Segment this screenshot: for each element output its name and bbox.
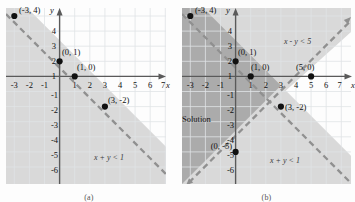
- point-label-b-0-1: (0, 1): [238, 47, 257, 57]
- x-tick-b-4: 2: [264, 80, 268, 90]
- x-tick-a-8: 6: [148, 80, 152, 90]
- panel-b-plot: x y -3 -2 -1 1 2 3 4 5 6 7 4 3 2 1 -1 -2: [178, 0, 355, 192]
- x-axis-label-b: x: [350, 80, 355, 90]
- point-label-b-5-0: (5, 0): [296, 62, 315, 72]
- point-label-b-neg3-4: (-3, 4): [195, 5, 216, 15]
- x-tick-b-1: -2: [202, 80, 209, 90]
- point-b-5-0[interactable]: [308, 73, 314, 79]
- y-tick-a-4: -1: [51, 90, 58, 100]
- y-tick-a-7: -4: [51, 135, 59, 145]
- x-tick-a-9: 7: [161, 80, 165, 90]
- point-label-a-0-1: (0, 1): [62, 47, 81, 57]
- y-tick-b-3: 1: [228, 71, 232, 81]
- point-label-b-0-neg5: (0, -5): [211, 141, 232, 151]
- y-tick-a-6: -3: [51, 120, 58, 130]
- region-label-b-x-plus-y: x + y < 1: [269, 156, 300, 165]
- x-tick-a-7: 5: [133, 80, 137, 90]
- point-b-neg3-4[interactable]: [187, 13, 193, 19]
- point-b-0-1[interactable]: [233, 58, 239, 64]
- y-tick-b-4: -1: [227, 90, 234, 100]
- point-a-0-1[interactable]: [57, 58, 63, 64]
- x-tick-a-2: -1: [41, 80, 48, 90]
- panel-a-plot: x y -3 -2 -1 1 2 3 4 5 6 7 4 3 2 1 -1: [0, 0, 178, 192]
- point-b-1-0[interactable]: [248, 73, 254, 79]
- x-axis-label-a: x: [165, 80, 170, 90]
- point-b-0-neg5[interactable]: [233, 149, 239, 155]
- x-tick-b-9: 7: [337, 80, 341, 90]
- y-tick-b-5: -2: [227, 105, 234, 115]
- x-tick-a-3: 1: [73, 80, 77, 90]
- point-label-a-3-neg2: (3, -2): [108, 95, 129, 105]
- point-label-b-3-neg2: (3, -2): [285, 102, 306, 112]
- figure-two-panel-inequality-graphs: x y -3 -2 -1 1 2 3 4 5 6 7 4 3 2 1 -1: [0, 0, 355, 202]
- y-axis-label-a: y: [49, 5, 54, 15]
- point-a-1-0[interactable]: [72, 73, 78, 79]
- x-tick-b-5: 3: [279, 80, 283, 90]
- x-tick-b-8: 6: [324, 80, 328, 90]
- y-tick-a-3: 1: [52, 71, 56, 81]
- y-axis-label-b: y: [225, 5, 230, 15]
- y-tick-a-8: -5: [51, 150, 58, 160]
- x-tick-b-0: -3: [187, 80, 194, 90]
- y-tick-a-2: 2: [52, 56, 56, 66]
- panel-a: x y -3 -2 -1 1 2 3 4 5 6 7 4 3 2 1 -1: [0, 0, 178, 202]
- caption-a: (a): [0, 193, 178, 202]
- region-label-a-x-plus-y: x + y < 1: [93, 153, 124, 162]
- y-tick-b-9: -6: [227, 165, 234, 175]
- y-tick-b-6: -3: [227, 120, 234, 130]
- x-tick-b-7: 5: [309, 80, 313, 90]
- point-a-neg3-4[interactable]: [11, 13, 17, 19]
- x-tick-a-4: 2: [88, 80, 92, 90]
- point-label-a-neg3-4: (-3, 4): [19, 5, 40, 15]
- point-label-a-1-0: (1, 0): [77, 62, 96, 72]
- x-tick-a-0: -3: [11, 80, 18, 90]
- solution-label-b: Solution: [182, 114, 212, 124]
- x-tick-b-2: -1: [217, 80, 224, 90]
- point-label-b-1-0: (1, 0): [251, 62, 270, 72]
- region-label-b-x-minus-y: x - y < 5: [283, 37, 311, 46]
- x-tick-a-1: -2: [26, 80, 33, 90]
- y-tick-a-1: 3: [52, 41, 56, 51]
- x-tick-a-5: 3: [103, 80, 107, 90]
- y-tick-b-1: 3: [228, 41, 232, 51]
- caption-b: (b): [178, 193, 355, 202]
- x-tick-b-3: 1: [249, 80, 253, 90]
- y-tick-b-2: 2: [228, 56, 232, 66]
- point-b-3-neg2[interactable]: [278, 104, 284, 110]
- panel-b: x y -3 -2 -1 1 2 3 4 5 6 7 4 3 2 1 -1 -2: [178, 0, 355, 202]
- y-tick-a-9: -6: [51, 165, 58, 175]
- y-tick-a-5: -2: [51, 105, 58, 115]
